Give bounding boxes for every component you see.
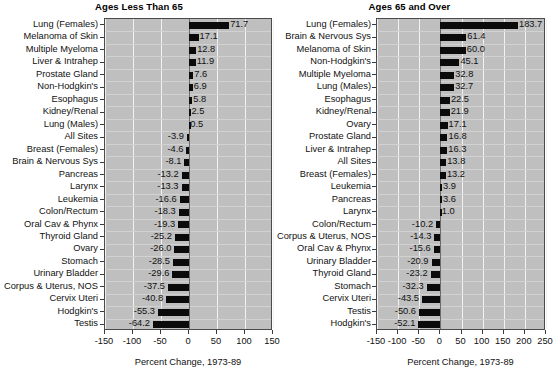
category-label: Prostate Gland	[0, 69, 98, 79]
category-label: Kidney/Renal	[0, 106, 98, 116]
y-axis-tick	[100, 261, 104, 262]
bar-value-label: 61.4	[467, 31, 485, 41]
gridline-x	[525, 19, 526, 329]
bar-value-label: 45.1	[460, 56, 478, 66]
y-axis-tick	[100, 162, 104, 163]
bar	[440, 172, 446, 179]
bar-value-label: 22.5	[451, 94, 469, 104]
category-label: Multiple Myeloma	[0, 44, 98, 54]
bar	[440, 196, 442, 203]
category-label: Hodgkin's	[171, 318, 371, 328]
y-axis-tick	[372, 87, 376, 88]
gridline-x	[546, 19, 547, 329]
category-label: Corpus & Uterus, NOS	[171, 231, 371, 241]
y-axis-tick	[372, 74, 376, 75]
category-label: Urinary Bladder	[0, 268, 98, 278]
category-label: Lung (Males)	[171, 81, 371, 91]
bar-value-label: 32.7	[455, 81, 473, 91]
category-label: Hodgkin's	[0, 306, 98, 316]
category-label: Lung (Males)	[0, 119, 98, 129]
bar-value-label: -28.5	[110, 256, 170, 266]
x-axis-tick	[418, 330, 419, 334]
bar	[418, 321, 440, 328]
bar-value-label: -13.3	[119, 181, 179, 191]
y-axis-tick	[100, 112, 104, 113]
chart-panel-ages-65-and-over: Ages 65 and Over Percent Change, 1973-89…	[273, 0, 553, 388]
category-label: Leukemia	[171, 181, 371, 191]
bar-value-label: 60.0	[467, 44, 485, 54]
bar-value-label: 21.9	[451, 106, 469, 116]
bar	[440, 184, 442, 191]
bar	[440, 122, 447, 129]
bar-value-label: 16.8	[448, 131, 466, 141]
bar-value-label: -19.3	[115, 219, 175, 229]
x-axis-tick	[461, 330, 462, 334]
category-label: Testis	[171, 306, 371, 316]
category-label: Prostate Gland	[171, 131, 371, 141]
bar	[440, 97, 450, 104]
category-label: Pancreas	[171, 194, 371, 204]
gridline-y	[377, 44, 544, 45]
x-axis-title-right: Percent Change, 1973-89	[376, 357, 545, 367]
bar	[440, 134, 447, 141]
y-axis-tick	[100, 236, 104, 237]
x-axis-tick	[503, 330, 504, 334]
category-label: Cervix Uteri	[0, 293, 98, 303]
category-label: Kidney/Renal	[171, 106, 371, 116]
category-label: Ovary	[0, 243, 98, 253]
category-label: Oral Cav & Phynx	[171, 243, 371, 253]
y-axis-tick	[372, 112, 376, 113]
y-axis-tick	[100, 186, 104, 187]
bar-value-label: 1.0	[442, 206, 455, 216]
bar	[434, 246, 441, 253]
category-label: Colon/Rectum	[171, 219, 371, 229]
category-label: Esophagus	[171, 94, 371, 104]
category-label: Larynx	[0, 181, 98, 191]
bar-value-label: -18.3	[116, 206, 176, 216]
x-axis-tick	[104, 330, 105, 334]
x-axis-tick	[376, 330, 377, 334]
category-label: Stomach	[0, 256, 98, 266]
y-axis-tick	[372, 99, 376, 100]
bar-value-label: -20.9	[369, 256, 429, 266]
chart-title-left: Ages Less Than 65	[5, 1, 273, 12]
category-label: Non-Hodgkin's	[0, 81, 98, 91]
bar-value-label: -14.3	[371, 231, 431, 241]
category-label: Pancreas	[0, 169, 98, 179]
y-axis-tick	[100, 286, 104, 287]
x-axis-tick	[132, 330, 133, 334]
y-axis-tick	[372, 149, 376, 150]
y-axis-tick	[100, 149, 104, 150]
y-axis-tick	[372, 162, 376, 163]
bar	[431, 271, 441, 278]
y-axis-tick	[100, 249, 104, 250]
x-axis-tick	[545, 330, 546, 334]
bar-value-label: 32.8	[455, 69, 473, 79]
category-label: Urinary Bladder	[171, 256, 371, 266]
category-label: Liver & Intrahep	[171, 144, 371, 154]
bar	[440, 59, 459, 66]
x-axis-tick	[188, 330, 189, 334]
bar-value-label: -43.5	[359, 293, 419, 303]
y-axis-tick	[372, 24, 376, 25]
y-axis-tick	[100, 224, 104, 225]
bar-value-label: -10.2	[373, 219, 433, 229]
gridline-y	[377, 181, 544, 182]
y-axis-tick	[100, 24, 104, 25]
bar-value-label: 13.8	[447, 156, 465, 166]
bar	[440, 159, 446, 166]
category-label: Brain & Nervous Sys	[0, 156, 98, 166]
bar-value-label: -32.3	[364, 281, 424, 291]
y-axis-tick	[372, 186, 376, 187]
x-axis-tick	[244, 330, 245, 334]
y-axis-tick	[372, 49, 376, 50]
bar-value-label: -37.5	[105, 281, 165, 291]
bar-value-label: 17.1	[449, 119, 467, 129]
category-label: Thyroid Gland	[0, 231, 98, 241]
y-axis-tick	[372, 211, 376, 212]
bar-value-label: -15.6	[371, 243, 431, 253]
y-axis-tick	[100, 174, 104, 175]
bar-value-label: -26.0	[111, 243, 171, 253]
bar-value-label: -13.2	[119, 169, 179, 179]
y-axis-tick	[372, 124, 376, 125]
